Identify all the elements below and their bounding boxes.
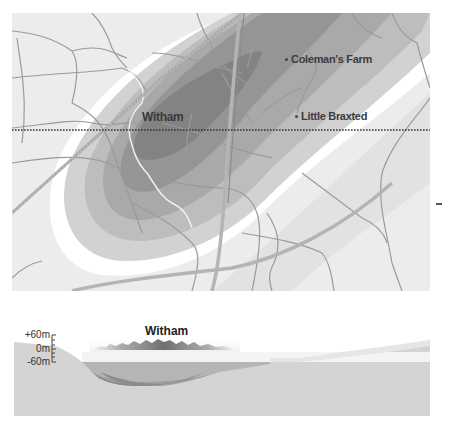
location-dot-icon (295, 115, 298, 118)
cross-section-graphic (0, 320, 449, 429)
label-witham: Witham (142, 110, 183, 124)
cross-section-title: Witham (145, 324, 188, 338)
scale-label-top: +60m (10, 329, 50, 340)
label-little-braxted: Little Braxted (295, 110, 367, 122)
label-witham-text: Witham (142, 110, 183, 124)
label-colemans-farm: Coleman's Farm (285, 53, 372, 65)
location-dot-icon (285, 58, 288, 61)
surface-strip (82, 352, 430, 362)
label-little-braxted-text: Little Braxted (301, 110, 367, 122)
label-colemans-farm-text: Coleman's Farm (291, 53, 372, 65)
subsidence-map: Witham Coleman's Farm Little Braxted (12, 13, 430, 291)
scale-label-middle: 0m (10, 343, 50, 354)
cross-section: +60m 0m -60m Witham (0, 320, 449, 429)
edge-marker-icon (436, 203, 442, 205)
scale-label-bottom: -60m (10, 356, 50, 367)
